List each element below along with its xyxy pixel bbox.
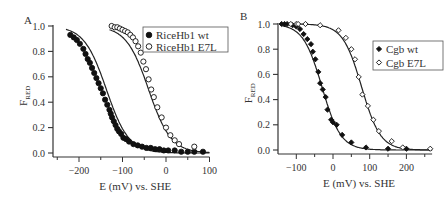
y-tick-label: 0.6 xyxy=(258,69,271,80)
filled-circle-marker xyxy=(81,46,86,51)
filled-circle-marker xyxy=(98,86,103,91)
x-tick-label: 100 xyxy=(362,162,377,173)
x-tick-label: 0 xyxy=(331,162,336,173)
filled-diamond-marker xyxy=(308,42,313,47)
filled-circle-marker xyxy=(103,97,108,102)
filled-circle-marker xyxy=(89,65,94,70)
legend-label: Cgb E7L xyxy=(386,57,426,69)
panel-b: B0.00.20.40.60.81.0FRED−1000100200E (mV)… xyxy=(240,10,443,190)
open-circle-marker xyxy=(133,39,138,44)
open-circle-marker xyxy=(138,50,143,55)
y-tick-label: 0.8 xyxy=(33,46,46,57)
filled-circle-marker xyxy=(105,102,110,107)
filled-circle-marker xyxy=(200,149,205,154)
open-circle-marker xyxy=(168,133,173,138)
open-circle-marker xyxy=(176,142,181,147)
panel-a: A0.00.20.40.60.81.0FRED−200−1000100E (mV… xyxy=(17,14,228,193)
open-diamond-marker xyxy=(318,23,323,28)
y-tick-label: 0.4 xyxy=(33,97,46,108)
legend-label: RiceHb1 wt xyxy=(156,29,209,41)
x-axis-label: E (mV) vs. SHE xyxy=(99,180,171,193)
open-circle-marker xyxy=(146,77,151,82)
y-tick-label: 0.0 xyxy=(258,145,271,156)
x-tick-label: 100 xyxy=(202,165,217,176)
filled-circle-marker xyxy=(172,148,177,153)
open-circle-marker xyxy=(172,138,177,143)
open-circle-marker xyxy=(146,44,152,50)
legend-label: Cgb wt xyxy=(386,43,418,55)
y-tick-label: 0.6 xyxy=(33,71,46,82)
filled-circle-marker xyxy=(179,149,184,154)
open-circle-marker xyxy=(192,144,197,149)
open-circle-marker xyxy=(141,59,146,64)
y-tick-label: 0.8 xyxy=(258,44,271,55)
open-circle-marker xyxy=(151,95,156,100)
open-diamond-marker xyxy=(343,35,348,40)
legend: Cgb wtCgb E7L xyxy=(373,41,443,70)
open-circle-marker xyxy=(159,115,164,120)
y-tick-label: 0.0 xyxy=(33,148,46,159)
open-diamond-marker xyxy=(303,21,308,26)
filled-diamond-marker xyxy=(340,132,345,137)
filled-circle-marker xyxy=(166,148,171,153)
legend-label: RiceHb1 E7L xyxy=(156,41,217,53)
filled-circle-marker xyxy=(100,91,105,96)
y-axis-label: FRED xyxy=(242,83,257,103)
x-tick-label: 200 xyxy=(399,162,414,173)
open-diamond-marker xyxy=(356,74,361,79)
filled-circle-marker xyxy=(77,41,82,46)
filled-circle-marker xyxy=(87,60,92,65)
panel-label: A xyxy=(24,14,32,26)
filled-circle-marker xyxy=(92,70,97,75)
x-axis-label: E (mV) vs. SHE xyxy=(323,177,395,190)
filled-circle-marker xyxy=(185,149,190,154)
open-circle-marker xyxy=(136,44,141,49)
y-axis-label: FRED xyxy=(17,86,32,106)
filled-circle-marker xyxy=(146,32,152,38)
open-circle-marker xyxy=(143,67,148,72)
y-tick-label: 1.0 xyxy=(258,19,271,30)
filled-diamond-marker xyxy=(301,31,306,36)
filled-circle-marker xyxy=(94,75,99,80)
open-diamond-marker xyxy=(365,103,370,108)
filled-diamond-marker xyxy=(320,87,325,92)
filled-circle-marker xyxy=(96,81,101,86)
open-diamond-marker xyxy=(389,139,394,144)
y-tick-label: 0.2 xyxy=(258,119,271,130)
filled-circle-marker xyxy=(192,149,197,154)
filled-diamond-marker xyxy=(305,37,310,42)
open-circle-marker xyxy=(149,87,154,92)
x-tick-label: 0 xyxy=(164,165,169,176)
x-tick-label: −100 xyxy=(112,165,133,176)
filled-diamond-marker xyxy=(323,94,328,99)
x-tick-label: −100 xyxy=(286,162,307,173)
y-tick-label: 0.4 xyxy=(258,94,271,105)
filled-circle-marker xyxy=(83,51,88,56)
open-circle-marker xyxy=(155,105,160,110)
y-tick-label: 1.0 xyxy=(33,21,46,32)
panel-label: B xyxy=(240,10,247,22)
filled-diamond-marker xyxy=(385,146,390,151)
open-circle-marker xyxy=(163,125,168,130)
legend: RiceHb1 wtRiceHb1 E7L xyxy=(143,27,228,53)
x-tick-label: −200 xyxy=(69,165,90,176)
y-tick-label: 0.2 xyxy=(33,122,46,133)
figure: A0.00.20.40.60.81.0FRED−200−1000100E (mV… xyxy=(0,0,447,200)
